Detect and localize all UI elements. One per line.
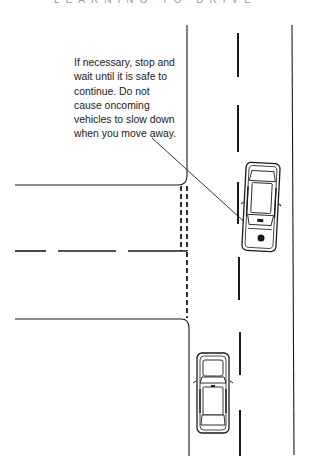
- oncoming-car: [193, 353, 233, 433]
- left-kerb-lower: [15, 319, 189, 456]
- road-diagram: [0, 0, 311, 475]
- give-way-lines: [181, 186, 187, 318]
- centre-line: [238, 33, 240, 456]
- right-kerb: [292, 25, 294, 455]
- side-road: [15, 186, 187, 318]
- driver-position-marker: [258, 235, 265, 242]
- left-kerb-upper: [15, 25, 187, 185]
